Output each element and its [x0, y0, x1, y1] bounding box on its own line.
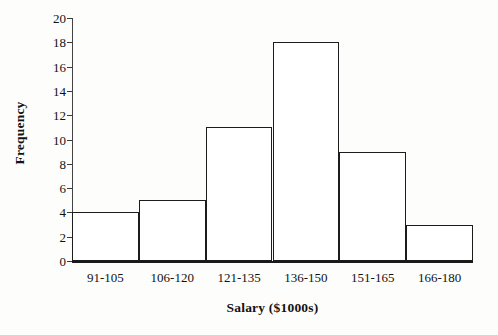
y-axis-tick-label: 10: [36, 133, 66, 146]
x-axis-tick-label: 151-165: [339, 270, 406, 286]
x-axis-line: [72, 261, 473, 263]
histogram-bar: [406, 225, 473, 261]
y-axis-tick-mark: [67, 91, 72, 92]
y-axis-tick-label: 12: [36, 109, 66, 122]
y-axis-tick-mark: [67, 237, 72, 238]
histogram-bar: [339, 152, 406, 261]
y-axis-tick-mark: [67, 115, 72, 116]
x-axis-tick-label: 136-150: [273, 270, 340, 286]
y-axis-tick-label: 6: [36, 182, 66, 195]
y-axis-tick-mark: [67, 18, 72, 19]
y-axis-tick-mark: [67, 42, 72, 43]
y-axis-tick-label: 2: [36, 230, 66, 243]
y-axis-tick-label: 4: [36, 206, 66, 219]
x-axis-tick-label: 106-120: [139, 270, 206, 286]
x-axis-title: Salary ($1000s): [72, 300, 473, 316]
y-axis-tick-mark: [67, 67, 72, 68]
y-axis-tick-label: 14: [36, 84, 66, 97]
histogram-bar: [72, 212, 139, 261]
y-axis-tick-mark: [67, 261, 72, 262]
histogram-bar: [273, 42, 340, 261]
y-axis-tick-label: 0: [36, 255, 66, 268]
x-axis-tick-label: 166-180: [406, 270, 473, 286]
histogram-bar: [139, 200, 206, 261]
y-axis-tick-mark: [67, 212, 72, 213]
y-axis-title-text: Frequency: [12, 101, 28, 164]
y-axis-tick-label: 18: [36, 36, 66, 49]
histogram-bar: [206, 127, 273, 261]
histogram-figure: Frequency 20181614121086420 91-105106-12…: [0, 0, 498, 335]
y-axis-tick-label: 8: [36, 157, 66, 170]
x-axis-tick-label: 121-135: [206, 270, 273, 286]
plot-area: [72, 18, 473, 262]
y-axis-title: Frequency: [0, 0, 40, 265]
y-axis-tick-label: 16: [36, 60, 66, 73]
y-axis-tick-mark: [67, 140, 72, 141]
y-axis-tick-labels: 20181614121086420: [36, 12, 66, 262]
x-axis-tick-label: 91-105: [72, 270, 139, 286]
y-axis-tick-mark: [67, 164, 72, 165]
bar-group: [72, 18, 473, 262]
x-axis-tick-labels: 91-105106-120121-135136-150151-165166-18…: [72, 270, 473, 292]
y-axis-tick-label: 20: [36, 12, 66, 25]
y-axis-tick-mark: [67, 188, 72, 189]
